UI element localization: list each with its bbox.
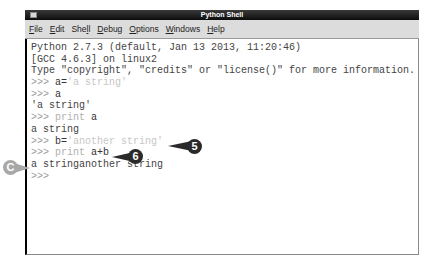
shell-input-line: >>> [31, 171, 418, 183]
menu-shell-label-pre: She [71, 24, 86, 34]
shell-input-line: >>> print a [31, 112, 418, 124]
menu-file[interactable]: File [29, 24, 43, 34]
menu-windows[interactable]: Windows [166, 24, 201, 34]
callout-6-badge: 6 [128, 149, 143, 164]
prompt: >>> [31, 136, 55, 147]
prompt: >>> [31, 112, 55, 123]
menu-debug-label: ebug [103, 24, 122, 34]
keyword: print [55, 112, 91, 123]
window-title: Python Shell [25, 10, 419, 20]
shell-output-line: 'a string' [31, 100, 418, 112]
callout-c-badge: C [3, 160, 18, 175]
menu-debug[interactable]: Debug [97, 24, 122, 34]
code: b= [55, 136, 67, 147]
shell-output-line: [GCC 4.6.3] on linux2 [31, 54, 418, 66]
menu-edit-label: dit [55, 24, 64, 34]
shell-output-line: a string [31, 124, 418, 136]
menu-windows-mnemonic: W [166, 24, 174, 34]
prompt: >>> [31, 77, 55, 88]
python-shell-window: Python Shell File Edit Shell Debug Optio… [25, 10, 419, 255]
title-bar[interactable]: Python Shell [25, 10, 419, 20]
shell-output-line: Type "copyright", "credits" or "license(… [31, 65, 418, 77]
code: a [55, 89, 61, 100]
code: a [91, 112, 97, 123]
menu-file-label: ile [34, 24, 43, 34]
code: a= [55, 77, 67, 88]
menu-help-label: elp [213, 24, 224, 34]
menu-bar: File Edit Shell Debug Options Windows He… [25, 20, 419, 39]
menu-shell-label: l [88, 24, 90, 34]
menu-options-label: ptions [136, 24, 159, 34]
string-literal: 'a string' [67, 77, 127, 88]
prompt: >>> [31, 89, 55, 100]
code: a+b [91, 147, 109, 158]
menu-edit[interactable]: Edit [50, 24, 65, 34]
shell-input-line: >>> print a+b [31, 147, 418, 159]
shell-input-line: >>> b='another string' [31, 136, 418, 148]
shell-output-line: Python 2.7.3 (default, Jan 13 2013, 11:2… [31, 42, 418, 54]
prompt: >>> [31, 147, 55, 158]
menu-options[interactable]: Options [129, 24, 158, 34]
shell-text-area[interactable]: Python 2.7.3 (default, Jan 13 2013, 11:2… [25, 39, 419, 255]
string-literal: 'another string' [67, 136, 163, 147]
menu-shell[interactable]: Shell [71, 24, 90, 34]
shell-input-line: >>> a [31, 89, 418, 101]
keyword: print [55, 147, 91, 158]
callout-5-badge: 5 [187, 139, 202, 154]
menu-help[interactable]: Help [207, 24, 224, 34]
shell-output-line: a stringanother string [31, 159, 418, 171]
menu-windows-label: indows [174, 24, 200, 34]
menu-options-mnemonic: O [129, 24, 136, 34]
prompt: >>> [31, 171, 49, 182]
shell-input-line: >>> a='a string' [31, 77, 418, 89]
